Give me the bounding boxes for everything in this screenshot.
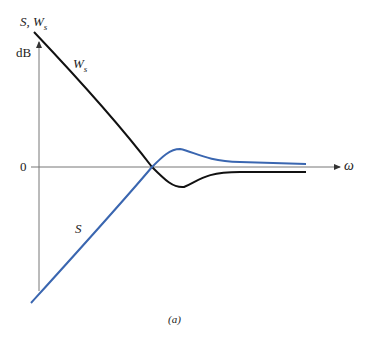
s-curve-label: S (75, 222, 82, 235)
ws-curve-label: Ws (73, 57, 87, 74)
figure-canvas: S, Ws dB Ws 0 ω S (a) (0, 0, 369, 347)
y-zero-label: 0 (20, 160, 27, 173)
figure-caption: (a) (168, 314, 181, 325)
y-axis-unit: dB (16, 46, 31, 59)
y-axis-title: S, Ws (20, 15, 47, 32)
x-axis-label: ω (344, 159, 354, 173)
plot-svg (0, 0, 369, 347)
